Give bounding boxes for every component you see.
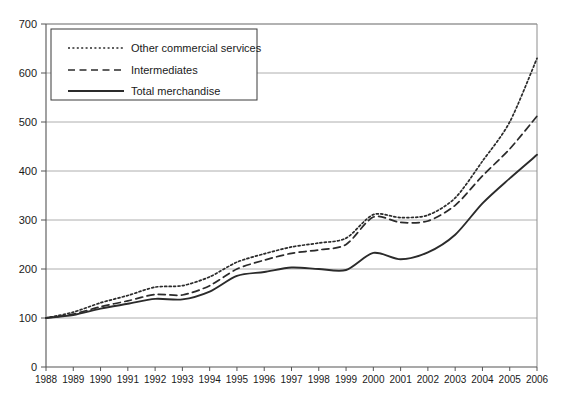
series-line-intermediates — [46, 116, 537, 318]
x-tick-label-1994: 1994 — [199, 374, 222, 385]
x-tick-label-1993: 1993 — [171, 374, 194, 385]
x-tick-label-1988: 1988 — [35, 374, 58, 385]
x-tick-label-1999: 1999 — [335, 374, 358, 385]
y-tick-label-0: 0 — [31, 361, 37, 373]
y-tick-label-200: 200 — [19, 263, 37, 275]
series-line-total-merchandise — [46, 155, 537, 318]
x-tick-label-1995: 1995 — [226, 374, 249, 385]
y-tick-label-300: 300 — [19, 214, 37, 226]
x-tick-label-2002: 2002 — [417, 374, 440, 385]
y-tick-label-700: 700 — [19, 18, 37, 30]
y-tick-label-600: 600 — [19, 67, 37, 79]
x-tick-label-1996: 1996 — [253, 374, 276, 385]
legend-label-1: Intermediates — [131, 64, 198, 76]
legend-label-0: Other commercial services — [131, 42, 262, 54]
line-chart: 0100200300400500600700 19881989199019911… — [0, 0, 568, 396]
x-tick-label-1989: 1989 — [62, 374, 85, 385]
y-axis-ticks: 0100200300400500600700 — [19, 18, 46, 373]
x-tick-label-2004: 2004 — [471, 374, 494, 385]
x-tick-label-1997: 1997 — [280, 374, 303, 385]
x-tick-label-2003: 2003 — [444, 374, 467, 385]
legend-label-2: Total merchandise — [131, 85, 220, 97]
x-tick-label-2001: 2001 — [389, 374, 412, 385]
x-tick-label-1990: 1990 — [89, 374, 112, 385]
x-tick-label-1992: 1992 — [144, 374, 167, 385]
y-tick-label-100: 100 — [19, 312, 37, 324]
x-axis-ticks: 1988198919901991199219931994199519961997… — [35, 367, 549, 385]
chart-legend: Other commercial servicesIntermediatesTo… — [51, 29, 262, 100]
x-tick-label-1998: 1998 — [308, 374, 331, 385]
x-tick-label-2006: 2006 — [526, 374, 549, 385]
x-tick-label-2005: 2005 — [499, 374, 522, 385]
y-tick-label-500: 500 — [19, 116, 37, 128]
x-tick-label-1991: 1991 — [117, 374, 140, 385]
x-tick-label-2000: 2000 — [362, 374, 385, 385]
chart-canvas: 0100200300400500600700 19881989199019911… — [0, 0, 568, 396]
y-tick-label-400: 400 — [19, 165, 37, 177]
